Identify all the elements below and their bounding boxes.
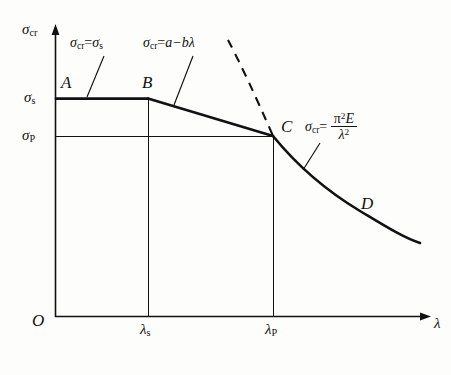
euler-sigma-symbol: σ [305, 119, 312, 134]
sigma-s-subscript: s [31, 95, 35, 106]
y-tick-sigma-p: σP [22, 128, 35, 144]
strength-envelope-group [56, 99, 420, 243]
y-tick-sigma-s: σs [24, 90, 35, 106]
annotation-euler-equation: σcr= π2E λ2 [305, 112, 357, 143]
point-label-D: D [361, 195, 373, 212]
leader-lines-group [87, 56, 320, 170]
annotation-linear-equation: σcr=a−bλ [143, 36, 195, 52]
y-axis-arrowhead [52, 24, 60, 35]
sigma-p-subscript: P [29, 133, 35, 144]
x-tick-lambda-p: λP [265, 322, 277, 338]
point-label-B: B [142, 74, 152, 91]
euler-denominator: λ2 [331, 127, 357, 142]
yield-sigma-symbol: σ [70, 35, 77, 50]
linear-rhs-expression: a−bλ [165, 35, 195, 50]
reference-lines-group [55, 99, 274, 316]
yield-rhs-subscript: s [99, 41, 103, 51]
euler-modulus-symbol: E [345, 111, 354, 126]
buckling-diagram-svg [0, 0, 451, 375]
leader-line-linear [174, 56, 193, 105]
axes-group [52, 24, 431, 320]
segment-CD-euler-curve [273, 136, 420, 243]
y-axis-label: σcr [22, 22, 37, 38]
euler-lambda-exponent: 2 [345, 127, 350, 137]
segment-BC-linear [148, 99, 273, 136]
euler-extension-dashed-curve [228, 40, 273, 136]
euler-fraction: π2E λ2 [331, 111, 357, 142]
figure-canvas: σcr λ O σs σP λs λP A B C D σcr=σs σcr=a… [0, 0, 451, 375]
lambda-s-subscript: s [147, 327, 151, 338]
euler-pi-symbol: π [334, 111, 341, 126]
euler-equals-sign: = [319, 119, 327, 134]
euler-numerator: π2E [331, 111, 357, 127]
leader-line-yield [87, 56, 104, 97]
point-label-C: C [281, 118, 292, 135]
point-label-A: A [61, 74, 71, 91]
x-axis-label: λ [434, 316, 441, 331]
origin-label: O [32, 312, 44, 329]
x-axis-arrowhead [420, 313, 431, 321]
lambda-p-subscript: P [272, 327, 278, 338]
x-tick-lambda-s: λs [140, 322, 150, 338]
linear-sigma-symbol: σ [143, 35, 150, 50]
y-axis-subscript: cr [29, 27, 37, 38]
leader-line-euler [303, 143, 320, 170]
annotation-yield-equation: σcr=σs [70, 36, 103, 52]
